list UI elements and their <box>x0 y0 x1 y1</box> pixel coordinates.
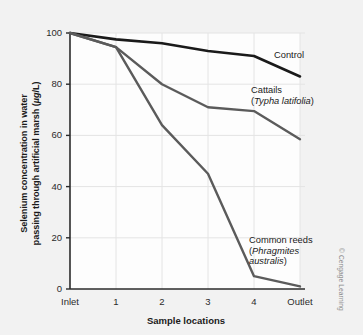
x-tick-label: 2 <box>139 296 185 307</box>
series-label-reeds-paren-close: ) <box>284 256 287 266</box>
x-tick-label: 1 <box>93 296 139 307</box>
x-tick-label: 3 <box>185 296 231 307</box>
x-tick-label: Inlet <box>47 296 93 307</box>
y-axis-title-line2-pre: passing through artificial marsh ( <box>30 103 40 245</box>
x-tick-label: 4 <box>231 296 277 307</box>
y-axis-unit-mu: µg <box>30 93 40 104</box>
x-axis-title: Sample locations <box>70 315 302 326</box>
series-label-control: Control <box>274 50 304 61</box>
series-label-reeds-scientific-species: australis <box>249 256 284 266</box>
chart-plot-area: 020406080100 Inlet1234Outlet <box>0 0 363 335</box>
series-label-reeds-scientific-genus: Phragmites <box>252 246 299 256</box>
series-label-cattails-paren-close: ) <box>311 96 314 106</box>
y-axis-title-line2-post: /L) <box>30 82 40 93</box>
y-axis-title: Selenium concentration in water passing … <box>19 39 42 289</box>
y-tick-label: 100 <box>32 27 62 38</box>
series-label-control-text: Control <box>274 50 304 60</box>
series-label-common-reeds: Common reeds (Phragmites australis) <box>249 235 313 267</box>
figure-container: 020406080100 Inlet1234Outlet Selenium co… <box>0 0 363 335</box>
series-label-cattails-line1: Cattails <box>251 85 282 95</box>
series-label-cattails: Cattails (Typha latifolia) <box>251 85 314 106</box>
x-tick-label: Outlet <box>277 296 323 307</box>
series-label-cattails-scientific: Typha latifolia <box>254 96 311 106</box>
series-label-reeds-line1: Common reeds <box>249 235 313 245</box>
y-axis-title-line1: Selenium concentration in water <box>19 94 29 232</box>
copyright-credit: © Cengage Learning <box>338 248 345 335</box>
